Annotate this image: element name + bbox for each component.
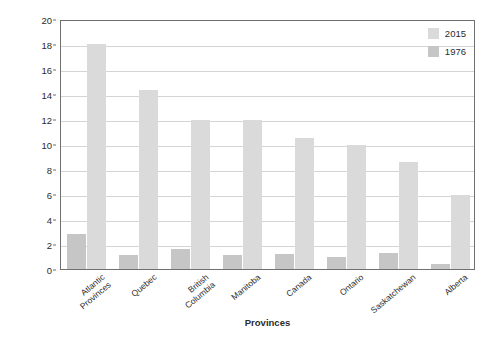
bar-2015 xyxy=(399,162,418,270)
bar-2015 xyxy=(347,145,366,269)
bar-2015 xyxy=(87,44,106,269)
bar-1976 xyxy=(223,255,242,269)
bar-1976 xyxy=(67,234,86,269)
y-axis-tick-mark xyxy=(53,45,56,46)
bar-2015 xyxy=(139,90,158,269)
legend-item-2015: 2015 xyxy=(428,28,466,39)
bar-1976 xyxy=(171,249,190,269)
bar-1976 xyxy=(327,257,346,270)
legend-swatch-2015-icon xyxy=(428,28,439,39)
y-axis-tick-label: 12 xyxy=(41,115,52,126)
y-axis-tick-labels: 02468101214161820 xyxy=(20,20,56,270)
y-axis-tick-label: 18 xyxy=(41,40,52,51)
bar-2015 xyxy=(191,120,210,269)
bar-1976 xyxy=(379,253,398,269)
legend-label-1976: 1976 xyxy=(445,46,466,57)
y-axis-tick-label: 16 xyxy=(41,65,52,76)
y-axis-tick-mark xyxy=(53,20,56,21)
y-axis-tick-label: 10 xyxy=(41,140,52,151)
bar-2015 xyxy=(295,138,314,269)
bars-layer xyxy=(61,21,474,269)
bar-2015 xyxy=(243,120,262,269)
bar-1976 xyxy=(275,254,294,269)
y-axis-tick-mark xyxy=(53,220,56,221)
legend-swatch-1976-icon xyxy=(428,46,439,57)
bar-2015 xyxy=(451,195,470,269)
y-axis-tick-label: 6 xyxy=(47,190,52,201)
y-axis-tick-mark xyxy=(53,195,56,196)
y-axis-tick-label: 8 xyxy=(47,165,52,176)
bar-1976 xyxy=(119,255,138,269)
x-axis-tick-labels: Atlantic ProvincesQuebecBritish Columbia… xyxy=(60,272,475,317)
y-axis-tick-mark xyxy=(53,145,56,146)
y-axis-tick-mark xyxy=(53,270,56,271)
y-axis-tick-mark xyxy=(53,120,56,121)
x-axis-title: Provinces xyxy=(60,317,475,328)
y-axis-tick-mark xyxy=(53,170,56,171)
x-axis-tick-label: Atlantic Provinces xyxy=(31,272,113,341)
plot-area: 2015 1976 xyxy=(60,20,475,270)
y-axis-tick-label: 2 xyxy=(47,240,52,251)
bar-1976 xyxy=(431,264,450,269)
y-axis-tick-label: 4 xyxy=(47,215,52,226)
y-axis-tick-mark xyxy=(53,70,56,71)
y-axis-tick-label: 0 xyxy=(47,265,52,276)
y-axis-tick-mark xyxy=(53,245,56,246)
bar-chart: Percentage of stay-at-home fathers 02468… xyxy=(0,0,498,341)
y-axis-tick-label: 20 xyxy=(41,15,52,26)
legend: 2015 1976 xyxy=(423,23,472,62)
y-axis-tick-mark xyxy=(53,95,56,96)
legend-label-2015: 2015 xyxy=(445,28,466,39)
y-axis-tick-label: 14 xyxy=(41,90,52,101)
legend-item-1976: 1976 xyxy=(428,46,466,57)
